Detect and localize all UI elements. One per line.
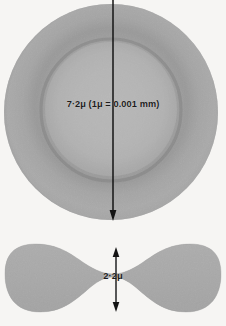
red-blood-cell-figure: 7·2μ (1μ = 0.001 mm) 2·2μ bbox=[0, 0, 226, 326]
disc-inner-depression bbox=[45, 42, 177, 176]
thickness-label: 2·2μ bbox=[0, 270, 226, 281]
diameter-label: 7·2μ (1μ = 0.001 mm) bbox=[0, 99, 226, 109]
